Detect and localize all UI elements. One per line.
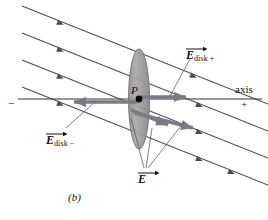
leader-edisk-plus bbox=[170, 59, 190, 96]
axis-positive-sign: + bbox=[241, 99, 247, 110]
e-disk-minus-label: E disk − bbox=[46, 131, 74, 148]
figure-caption: (b) bbox=[68, 192, 81, 203]
axis-negative-sign: − bbox=[8, 98, 14, 109]
point-p-marker bbox=[136, 96, 143, 103]
e-disk-minus-subscript: disk − bbox=[54, 139, 74, 148]
figure-canvas bbox=[0, 0, 268, 220]
leader-eprime-3 bbox=[148, 122, 184, 168]
point-p-label: P bbox=[131, 85, 138, 96]
e-disk-plus-subscript: disk + bbox=[194, 54, 214, 63]
vector-arrow-icon bbox=[46, 131, 68, 136]
vector-arrow-icon bbox=[138, 170, 160, 175]
axis-label: axis bbox=[235, 84, 253, 95]
e-prime-label: E bbox=[138, 170, 146, 187]
electric-field-disk-figure: E disk + E disk − E axis + − P (b) bbox=[0, 0, 268, 220]
vector-arrow-icon bbox=[186, 46, 208, 51]
e-disk-plus-label: E disk + bbox=[186, 46, 214, 63]
